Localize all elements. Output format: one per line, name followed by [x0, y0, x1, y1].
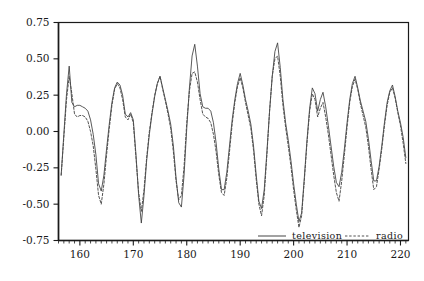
y-tick-label: -0.50 — [23, 198, 50, 210]
data-series-layer — [61, 43, 406, 228]
axes-frame — [59, 23, 409, 241]
chart-figure: 160170180190200210220 -0.75-0.50-0.250.0… — [0, 0, 424, 281]
x-tick-label: 160 — [70, 248, 90, 260]
y-tick-label: -0.75 — [23, 234, 50, 246]
legend-label-television: television — [292, 230, 342, 241]
legend-label-radio: radio — [376, 230, 403, 241]
y-tick-label: -0.25 — [23, 161, 50, 173]
y-axis-tick-labels: -0.75-0.50-0.250.000.250.500.75 — [23, 16, 50, 246]
y-tick-label: 0.50 — [26, 52, 49, 64]
x-tick-label: 200 — [284, 248, 304, 260]
y-tick-label: 0.00 — [26, 125, 49, 137]
x-tick-label: 210 — [337, 248, 357, 260]
y-tick-label: 0.75 — [26, 16, 49, 28]
x-tick-label: 180 — [177, 248, 197, 260]
line-chart-svg: 160170180190200210220 -0.75-0.50-0.250.0… — [0, 0, 424, 281]
series-line-television — [61, 43, 406, 223]
x-tick-label: 170 — [123, 248, 143, 260]
x-tick-label: 220 — [390, 248, 410, 260]
x-tick-label: 190 — [230, 248, 250, 260]
series-line-radio — [61, 56, 406, 227]
x-axis-tick-labels: 160170180190200210220 — [70, 248, 411, 260]
y-tick-label: 0.25 — [26, 89, 49, 101]
